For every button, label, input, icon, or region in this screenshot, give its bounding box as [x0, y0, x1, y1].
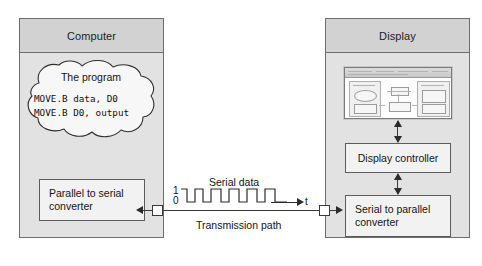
computer-panel-header: Computer [20, 19, 163, 53]
display-panel: Display [325, 18, 470, 238]
program-blob: The program MOVE.B data, D0 MOVE.B D0, o… [25, 59, 157, 141]
time-axis-arrow [297, 198, 304, 206]
display-panel-header: Display [326, 19, 469, 53]
waveform-level-low: 0 [173, 195, 179, 206]
parallel-to-serial-converter-label: Parallel to serial converter [49, 187, 124, 213]
computer-panel-title: Computer [67, 30, 116, 42]
program-blob-title: The program [25, 71, 157, 83]
serial-to-parallel-converter-box: Serial to parallel converter [345, 195, 451, 237]
transmission-arrow-right [336, 206, 343, 214]
program-blob-content: The program MOVE.B data, D0 MOVE.B D0, o… [25, 59, 157, 141]
computer-panel: Computer The program MOVE.B data, D0 MOV… [19, 18, 164, 238]
screen-controller-arrow-down [394, 136, 402, 143]
diagram-canvas: Computer The program MOVE.B data, D0 MOV… [0, 0, 482, 266]
connector-jack-left [152, 205, 163, 216]
controller-converter-arrow-down [394, 188, 402, 195]
program-code-line-2: MOVE.B D0, output [34, 106, 129, 120]
parallel-to-serial-converter-box: Parallel to serial converter [39, 179, 145, 221]
display-controller-label: Display controller [358, 152, 439, 165]
screen-content [345, 78, 451, 118]
display-panel-title: Display [379, 30, 416, 42]
screen-center-pane [384, 81, 414, 117]
program-code-line-1: MOVE.B data, D0 [34, 92, 118, 106]
screen-right-pane [417, 81, 450, 117]
time-axis-line [271, 202, 298, 203]
serial-to-parallel-converter-label: Serial to parallel converter [355, 203, 430, 229]
transmission-path-label: Transmission path [196, 219, 281, 231]
display-controller-box: Display controller [345, 143, 451, 173]
screen-controller-arrow-up [394, 120, 402, 127]
screen-titlebar [345, 68, 451, 78]
controller-converter-arrow-up [394, 173, 402, 180]
screen-left-pane [349, 81, 381, 117]
screen-thumbnail [344, 67, 452, 119]
transmission-arrow-left [136, 206, 143, 214]
time-axis-label: t [305, 196, 308, 207]
